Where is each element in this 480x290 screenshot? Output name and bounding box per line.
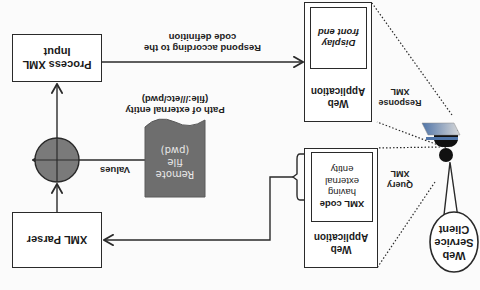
- display-front-end-box: Display front end: [310, 7, 367, 69]
- process-xml-input-box: Process XML Input: [12, 34, 102, 82]
- user-computer-icon: [422, 123, 460, 162]
- query-xml-line1: Query: [380, 179, 420, 190]
- client-bubble-tail: [444, 162, 458, 218]
- display-line1: Display: [318, 38, 359, 50]
- client-line2: Service: [430, 236, 478, 249]
- respond-line2: code definition: [115, 32, 290, 43]
- xml-code-line3: external: [320, 176, 365, 188]
- web-app-query-title1: Web: [305, 243, 377, 255]
- xml-parser-label: XML Parser: [27, 234, 87, 247]
- web-app-query: Web Application XML code having external…: [304, 148, 378, 268]
- remote-file-line1: Remote: [145, 168, 205, 180]
- web-app-query-title2: Application: [305, 231, 377, 243]
- process-input-line2: Input: [22, 45, 91, 58]
- web-service-client-label: Web Service Client: [430, 223, 478, 262]
- respond-label: Respond according to the code definition: [115, 32, 290, 54]
- client-line3: Client: [430, 223, 478, 236]
- xml-code-line2: having: [320, 187, 365, 199]
- xml-parser-box: XML Parser: [12, 212, 102, 268]
- xml-code-line1: XML code: [320, 199, 365, 211]
- query-xml-label: Query XML: [380, 168, 420, 190]
- remote-file-line2: file: [145, 156, 205, 168]
- process-input-line1: Process XML: [22, 58, 91, 71]
- values-text: Values: [100, 165, 130, 176]
- response-xml-line1: Response: [375, 97, 425, 108]
- xxe-attack-diagram: Process XML Input XML Parser Remote file…: [0, 0, 480, 290]
- xml-code-line4: entity: [320, 164, 365, 176]
- respond-line1: Respond according to the: [115, 43, 290, 54]
- web-app-response: Web Application Display front end: [304, 2, 372, 122]
- web-app-response-title2: Application: [305, 85, 371, 97]
- remote-file-label: Remote file (pwd): [145, 144, 205, 180]
- query-xml-line2: XML: [380, 168, 420, 179]
- client-line1: Web: [430, 249, 478, 262]
- path-line2: (file:///etc/pwd): [110, 94, 240, 105]
- web-app-response-title1: Web: [305, 97, 371, 109]
- merge-circle: [35, 138, 79, 182]
- response-xml-label: Response XML: [375, 86, 425, 108]
- values-label: Values: [90, 165, 140, 176]
- response-xml-line2: XML: [375, 86, 425, 97]
- path-line1: Path of external entity: [110, 105, 240, 116]
- path-label: Path of external entity (file:///etc/pwd…: [110, 94, 240, 116]
- display-line2: front end: [318, 27, 359, 39]
- remote-file-line3: (pwd): [145, 144, 205, 156]
- xml-code-external-entity-box: XML code having external entity: [311, 152, 373, 222]
